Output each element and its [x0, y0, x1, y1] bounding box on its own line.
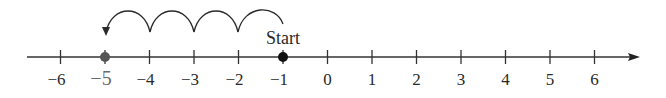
- tick-label: −6: [47, 70, 65, 89]
- tick-label: 6: [590, 70, 599, 89]
- tick-label: 3: [457, 70, 466, 89]
- tick-label: −1: [270, 70, 288, 89]
- number-line-diagram: −6−5−4−3−2−10123456 Start: [0, 0, 666, 98]
- jump-arcs: [106, 10, 283, 32]
- tick-labels: −6−5−4−3−2−10123456: [47, 67, 598, 89]
- tick-label: 0: [323, 70, 332, 89]
- tick-label: −3: [181, 70, 199, 89]
- arrowhead-icon: [102, 27, 110, 36]
- tick-label: −2: [225, 70, 243, 89]
- start-point: [278, 52, 288, 62]
- tick-label: 4: [501, 70, 510, 89]
- tick-label: −4: [136, 70, 155, 89]
- jump-arc-2: [194, 11, 238, 32]
- jump-arc-4: [106, 11, 150, 32]
- start-label: Start: [266, 28, 300, 48]
- end-point: [100, 52, 110, 62]
- tick-label: 5: [546, 70, 555, 89]
- tick-label: 1: [368, 70, 377, 89]
- jump-arc-3: [150, 11, 194, 32]
- tick-label: −5: [90, 67, 111, 89]
- tick-label: 2: [412, 70, 421, 89]
